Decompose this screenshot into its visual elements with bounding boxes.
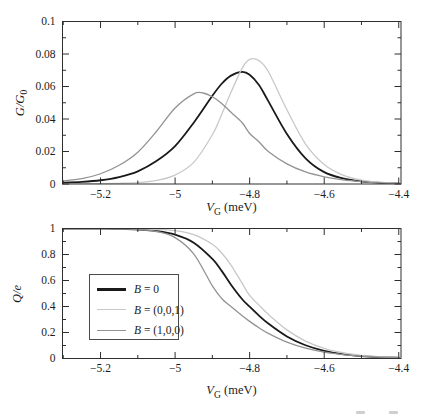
legend-entry-b001: B = (0,0,1) — [90, 300, 178, 321]
top-y-axis-label: G/G0 — [13, 90, 28, 116]
curve-b0 — [60, 72, 399, 184]
curve-b100 — [60, 92, 399, 183]
y-tick-label: 0 — [50, 352, 56, 364]
plot-frame — [63, 22, 402, 185]
cropped-caption-fragment — [356, 411, 365, 414]
ylabel-bottom-var: Q/e — [10, 285, 24, 303]
y-tick-label: 0.1 — [41, 15, 56, 27]
conductance-plot: −5.2−5−4.8−4.6−4.400.020.040.060.080.1 — [0, 0, 431, 218]
legend-rest: = (0,0,1) — [141, 304, 184, 316]
x-tick-label: −5.2 — [90, 362, 111, 374]
y-tick-label: 1 — [50, 222, 56, 234]
legend-rest: = (1,0,0) — [141, 324, 184, 336]
y-tick-label: 0.4 — [41, 300, 56, 312]
y-tick-label: 0.02 — [35, 145, 55, 157]
legend-label: B = (1,0,0) — [134, 324, 184, 336]
ylabel-top-var: G/G — [13, 95, 27, 117]
y-tick-label: 0.8 — [41, 248, 56, 260]
y-tick-label: 0 — [50, 178, 56, 190]
y-tick-label: 0.6 — [41, 274, 56, 286]
top-x-axis-label: VG (meV) — [62, 200, 401, 215]
y-tick-label: 0.06 — [35, 80, 55, 92]
legend-var: B — [134, 304, 141, 316]
legend-entry-b0: B = 0 — [90, 279, 178, 300]
x-tick-label: −5.2 — [90, 188, 111, 200]
x-tick-label: −4.6 — [314, 362, 335, 374]
bottom-y-axis-label: Q/e — [10, 285, 25, 303]
legend-line-sample-lightgray — [97, 309, 126, 310]
legend-var: B — [134, 283, 141, 295]
x-tick-label: −4.8 — [239, 362, 260, 374]
y-tick-label: 0.08 — [35, 48, 55, 60]
legend-label: B = 0 — [134, 283, 159, 295]
legend-label: B = (0,0,1) — [134, 304, 184, 316]
legend-line-sample-gray — [97, 330, 126, 331]
y-tick-label: 0.2 — [41, 326, 56, 338]
legend-line-sample-black — [97, 288, 126, 291]
cropped-caption-fragment — [389, 411, 398, 414]
xlabel-var: V — [206, 383, 214, 397]
x-tick-label: −5 — [169, 362, 181, 374]
xlabel-var: V — [206, 200, 214, 214]
xlabel-unit: (meV) — [221, 383, 257, 397]
legend-var: B — [134, 324, 141, 336]
bottom-x-axis-label: VG (meV) — [62, 383, 401, 398]
x-tick-label: −4.4 — [388, 362, 409, 374]
figure-two-panel-plot: −5.2−5−4.8−4.6−4.400.020.040.060.080.1 −… — [0, 0, 431, 418]
legend-rest: = 0 — [141, 283, 159, 295]
x-tick-label: −4.8 — [239, 188, 260, 200]
x-tick-label: −4.6 — [314, 188, 335, 200]
xlabel-unit: (meV) — [221, 200, 257, 214]
xlabel-sub: G — [214, 207, 221, 217]
y-tick-label: 0.04 — [35, 113, 55, 125]
xlabel-sub: G — [214, 390, 221, 400]
x-tick-label: −5 — [169, 188, 181, 200]
x-tick-label: −4.4 — [388, 188, 409, 200]
legend: B = 0 B = (0,0,1) B = (1,0,0) — [89, 274, 179, 340]
ylabel-top-sub: 0 — [19, 90, 29, 95]
legend-entry-b100: B = (1,0,0) — [90, 320, 178, 341]
